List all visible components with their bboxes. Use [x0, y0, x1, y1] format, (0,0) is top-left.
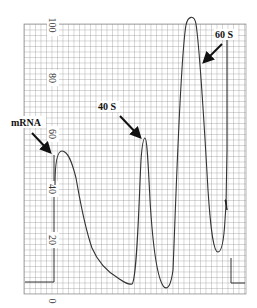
40s-label: 40 S	[98, 101, 117, 112]
sucrose-gradient-profile-chart: 100 80 60 40 20 0 mRNA 40 S 60 S	[0, 0, 257, 308]
60s-label: 60 S	[215, 29, 234, 40]
y-tick-60: 60	[47, 129, 58, 139]
y-tick-20: 20	[47, 235, 58, 245]
y-tick-0: 0	[47, 299, 58, 304]
y-tick-100: 100	[47, 18, 58, 33]
y-tick-80: 80	[47, 73, 58, 83]
y-tick-40: 40	[47, 184, 58, 194]
mrna-label: mRNA	[11, 117, 42, 128]
